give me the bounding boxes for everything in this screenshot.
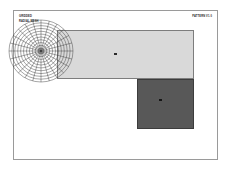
header-title: GRIDDED xyxy=(19,15,32,18)
plot-canvas: GRIDDED RADIAL MESH PATTERN V1.0 xyxy=(0,0,233,173)
main-field-region xyxy=(57,30,194,79)
header-version-label: PATTERN V1.0 xyxy=(192,15,212,18)
header-subtitle: RADIAL MESH xyxy=(19,20,39,23)
dark-field-region xyxy=(137,79,194,129)
main-marker xyxy=(114,53,117,55)
dark-marker xyxy=(159,99,162,101)
